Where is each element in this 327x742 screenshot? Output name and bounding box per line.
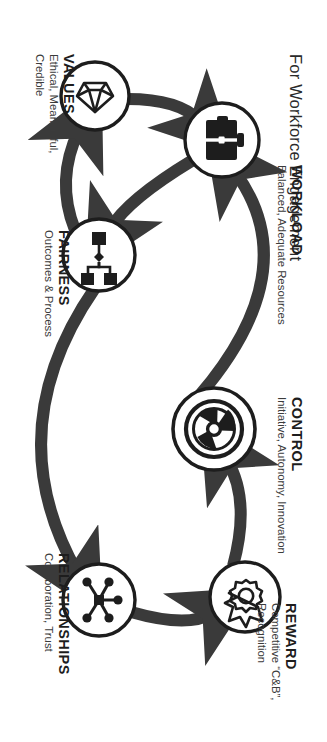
arrow-relationships-to-reward: [131, 612, 211, 621]
label-reward: REWARD Competitive “C&B”, Recognition: [255, 603, 299, 742]
label-reward-detail-2: Recognition: [255, 603, 268, 742]
arrow-values-to-workload: [123, 99, 199, 120]
label-relationships-detail-1: Collaboration, Trust: [41, 553, 54, 733]
label-control-heading: CONTROL: [288, 397, 305, 567]
diagram-canvas: For Workforce Engagement REWARD Competit…: [0, 0, 327, 742]
label-workload-heading: WORKLOAD: [288, 165, 305, 355]
arrow-control-to-workload: [199, 172, 264, 396]
label-values: VALUES Ethical, Meaningful, Credible: [33, 54, 77, 224]
node-fairness[interactable]: [63, 219, 135, 291]
node-relationships[interactable]: [63, 564, 135, 636]
label-values-detail-2: Credible: [33, 54, 46, 224]
label-values-heading: VALUES: [60, 54, 77, 224]
label-fairness: FAIRNESS Outcomes & Process: [41, 230, 72, 390]
label-fairness-detail-1: Outcomes & Process: [41, 230, 54, 390]
diagram-stage: For Workforce Engagement REWARD Competit…: [0, 0, 327, 742]
node-workload[interactable]: [185, 103, 259, 177]
label-workload-detail-1: Balanced, Adequate Resources: [274, 165, 287, 355]
label-control-detail-1: Initiative, Autonomy, Innovation: [274, 397, 287, 567]
arrow-workload-to-fairness: [111, 160, 193, 228]
arrow-reward-to-control: [227, 460, 241, 566]
label-reward-heading: REWARD: [282, 603, 299, 742]
label-relationships-heading: RELATIONSHIPS: [55, 553, 72, 733]
label-relationships: RELATIONSHIPS Collaboration, Trust: [41, 553, 72, 733]
label-workload: WORKLOAD Balanced, Adequate Resources: [274, 165, 305, 355]
label-reward-detail-1: Competitive “C&B”,: [268, 603, 281, 742]
node-control[interactable]: [173, 388, 255, 470]
label-fairness-heading: FAIRNESS: [55, 230, 72, 390]
label-values-detail-1: Ethical, Meaningful,: [46, 54, 59, 224]
label-control: CONTROL Initiative, Autonomy, Innovation: [274, 397, 305, 567]
